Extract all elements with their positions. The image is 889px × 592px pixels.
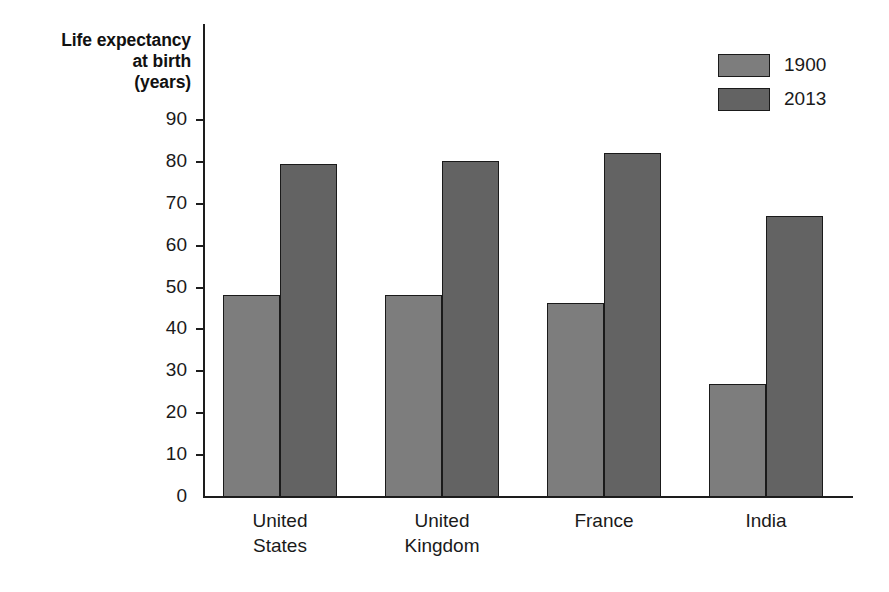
y-tick-label-30: 30 [67,359,187,381]
bar-france-1900 [547,303,604,497]
y-tick-mark-60 [196,245,205,247]
legend-swatch-2013-icon [718,88,770,111]
x-axis-label-united-kingdom: UnitedKingdom [372,508,512,558]
y-tick-label-60: 60 [67,234,187,256]
bar-india-1900 [709,384,766,497]
y-tick-label-20: 20 [67,401,187,423]
y-axis-title-line-1: Life expectancy [28,30,191,51]
y-tick-label-90: 90 [67,108,187,130]
bar-united-states-1900 [223,295,280,497]
x-axis-label-line: United [210,508,350,533]
y-axis-title: Life expectancy at birth (years) [28,30,191,93]
y-tick-mark-40 [196,328,205,330]
y-tick-label-40: 40 [67,317,187,339]
bar-chart: Life expectancy at birth (years) 0102030… [0,0,889,592]
legend: 1900 2013 [718,48,826,116]
y-tick-label-70: 70 [67,192,187,214]
x-axis-label-india: India [696,508,836,533]
x-axis-label-line: States [210,533,350,558]
y-tick-label-10: 10 [67,443,187,465]
y-tick-mark-30 [196,370,205,372]
x-axis-label-france: France [534,508,674,533]
bar-united-kingdom-2013 [442,161,499,497]
x-axis-label-line: France [534,508,674,533]
y-tick-label-50: 50 [67,276,187,298]
y-tick-mark-20 [196,412,205,414]
y-tick-label-0: 0 [67,485,187,507]
bar-united-states-2013 [280,164,337,497]
legend-swatch-1900-icon [718,54,770,77]
y-tick-label-80: 80 [67,150,187,172]
plot-area [205,120,853,497]
legend-item-2013: 2013 [718,82,826,116]
legend-label-1900: 1900 [784,54,826,76]
x-axis-label-united-states: UnitedStates [210,508,350,558]
x-axis-label-line: India [696,508,836,533]
bar-france-2013 [604,153,661,497]
y-tick-mark-80 [196,161,205,163]
y-tick-mark-90 [196,119,205,121]
x-axis-label-line: Kingdom [372,533,512,558]
y-tick-mark-70 [196,203,205,205]
x-axis-label-line: United [372,508,512,533]
legend-label-2013: 2013 [784,88,826,110]
legend-item-1900: 1900 [718,48,826,82]
bar-india-2013 [766,216,823,497]
y-tick-mark-10 [196,454,205,456]
y-tick-mark-50 [196,287,205,289]
y-axis-title-line-3: (years) [28,72,191,93]
y-axis-title-line-2: at birth [28,51,191,72]
bar-united-kingdom-1900 [385,295,442,497]
